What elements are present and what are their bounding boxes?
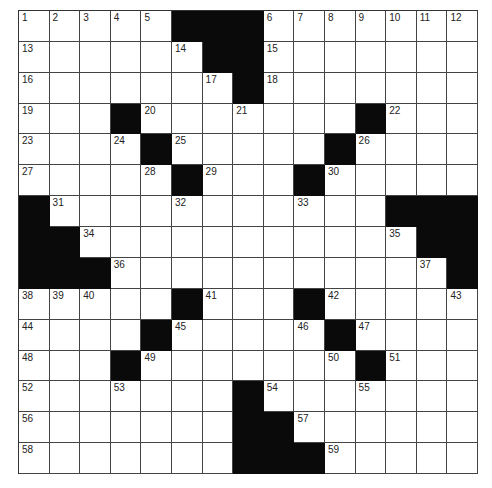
grid-cell[interactable] <box>233 320 264 351</box>
grid-cell[interactable]: 27 <box>19 165 50 196</box>
grid-cell[interactable] <box>417 381 448 412</box>
grid-cell[interactable]: 10 <box>386 11 417 42</box>
grid-cell[interactable] <box>50 73 81 104</box>
grid-cell[interactable]: 59 <box>325 443 356 474</box>
grid-cell[interactable] <box>294 381 325 412</box>
grid-cell[interactable] <box>172 258 203 289</box>
grid-cell[interactable] <box>264 227 295 258</box>
grid-cell[interactable] <box>294 134 325 165</box>
grid-cell[interactable] <box>111 165 142 196</box>
grid-cell[interactable] <box>233 351 264 382</box>
grid-cell[interactable] <box>386 412 417 443</box>
grid-cell[interactable]: 1 <box>19 11 50 42</box>
grid-cell[interactable] <box>50 412 81 443</box>
grid-cell[interactable]: 7 <box>294 11 325 42</box>
grid-cell[interactable] <box>417 165 448 196</box>
grid-cell[interactable] <box>233 196 264 227</box>
grid-cell[interactable] <box>80 73 111 104</box>
grid-cell[interactable] <box>447 320 478 351</box>
grid-cell[interactable] <box>50 42 81 73</box>
grid-cell[interactable] <box>203 320 234 351</box>
grid-cell[interactable] <box>141 412 172 443</box>
grid-cell[interactable] <box>233 134 264 165</box>
grid-cell[interactable]: 41 <box>203 289 234 320</box>
grid-cell[interactable] <box>386 381 417 412</box>
grid-cell[interactable] <box>203 104 234 135</box>
grid-cell[interactable]: 2 <box>50 11 81 42</box>
grid-cell[interactable] <box>111 320 142 351</box>
grid-cell[interactable] <box>50 443 81 474</box>
grid-cell[interactable]: 16 <box>19 73 50 104</box>
grid-cell[interactable] <box>325 104 356 135</box>
grid-cell[interactable] <box>233 258 264 289</box>
grid-cell[interactable] <box>203 258 234 289</box>
grid-cell[interactable] <box>417 320 448 351</box>
grid-cell[interactable]: 44 <box>19 320 50 351</box>
grid-cell[interactable]: 13 <box>19 42 50 73</box>
grid-cell[interactable]: 33 <box>294 196 325 227</box>
grid-cell[interactable] <box>141 196 172 227</box>
grid-cell[interactable]: 28 <box>141 165 172 196</box>
grid-cell[interactable] <box>447 165 478 196</box>
grid-cell[interactable] <box>172 443 203 474</box>
grid-cell[interactable] <box>447 104 478 135</box>
grid-cell[interactable] <box>294 73 325 104</box>
grid-cell[interactable] <box>50 351 81 382</box>
grid-cell[interactable] <box>50 165 81 196</box>
grid-cell[interactable] <box>264 134 295 165</box>
grid-cell[interactable]: 24 <box>111 134 142 165</box>
grid-cell[interactable]: 52 <box>19 381 50 412</box>
grid-cell[interactable] <box>264 320 295 351</box>
grid-cell[interactable] <box>50 320 81 351</box>
grid-cell[interactable] <box>325 42 356 73</box>
grid-cell[interactable] <box>111 412 142 443</box>
grid-cell[interactable]: 55 <box>356 381 387 412</box>
grid-cell[interactable]: 25 <box>172 134 203 165</box>
grid-cell[interactable] <box>386 443 417 474</box>
grid-cell[interactable] <box>172 351 203 382</box>
grid-cell[interactable]: 38 <box>19 289 50 320</box>
grid-cell[interactable] <box>111 443 142 474</box>
grid-cell[interactable]: 58 <box>19 443 50 474</box>
grid-cell[interactable]: 57 <box>294 412 325 443</box>
grid-cell[interactable] <box>325 381 356 412</box>
grid-cell[interactable] <box>294 258 325 289</box>
grid-cell[interactable]: 32 <box>172 196 203 227</box>
grid-cell[interactable] <box>417 443 448 474</box>
grid-cell[interactable] <box>386 73 417 104</box>
grid-cell[interactable] <box>447 351 478 382</box>
grid-cell[interactable] <box>233 227 264 258</box>
grid-cell[interactable] <box>172 381 203 412</box>
grid-cell[interactable] <box>386 258 417 289</box>
grid-cell[interactable] <box>294 42 325 73</box>
grid-cell[interactable] <box>203 134 234 165</box>
grid-cell[interactable] <box>141 73 172 104</box>
grid-cell[interactable] <box>203 351 234 382</box>
grid-cell[interactable] <box>80 104 111 135</box>
grid-cell[interactable] <box>417 351 448 382</box>
grid-cell[interactable] <box>325 258 356 289</box>
grid-cell[interactable] <box>417 412 448 443</box>
grid-cell[interactable] <box>50 134 81 165</box>
grid-cell[interactable]: 18 <box>264 73 295 104</box>
grid-cell[interactable] <box>417 134 448 165</box>
grid-cell[interactable] <box>447 381 478 412</box>
grid-cell[interactable] <box>203 381 234 412</box>
grid-cell[interactable] <box>111 42 142 73</box>
grid-cell[interactable]: 23 <box>19 134 50 165</box>
grid-cell[interactable] <box>447 42 478 73</box>
grid-cell[interactable]: 9 <box>356 11 387 42</box>
grid-cell[interactable] <box>447 73 478 104</box>
grid-cell[interactable]: 31 <box>50 196 81 227</box>
grid-cell[interactable] <box>386 42 417 73</box>
grid-cell[interactable] <box>356 73 387 104</box>
grid-cell[interactable] <box>80 412 111 443</box>
grid-cell[interactable]: 5 <box>141 11 172 42</box>
grid-cell[interactable] <box>141 381 172 412</box>
grid-cell[interactable] <box>264 196 295 227</box>
grid-cell[interactable] <box>111 196 142 227</box>
grid-cell[interactable] <box>356 227 387 258</box>
grid-cell[interactable]: 11 <box>417 11 448 42</box>
grid-cell[interactable] <box>264 351 295 382</box>
grid-cell[interactable]: 22 <box>386 104 417 135</box>
